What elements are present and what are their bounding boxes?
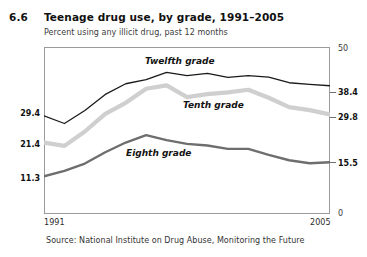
chart-lines <box>44 47 330 214</box>
y-label-eighth-end: 15.5 <box>338 159 358 168</box>
y-label-axis-max: 50 <box>338 44 348 53</box>
figure-container: 6.6 Teenage drug use, by grade, 1991–200… <box>0 0 367 257</box>
plot-area <box>44 47 330 214</box>
figure-subtitle: Percent using any illicit drug, past 12 … <box>44 28 228 37</box>
page-title: Teenage drug use, by grade, 1991–2005 <box>44 11 284 23</box>
y-label-tenth-start: 21.4 <box>6 140 40 149</box>
y-label-twelfth-end: 38.4 <box>338 88 358 97</box>
x-axis-end-label: 2005 <box>310 218 331 227</box>
y-label-tenth-end: 29.8 <box>338 113 358 122</box>
y-label-twelfth-start: 29.4 <box>6 109 40 118</box>
tick-mark-tenth <box>330 117 336 118</box>
y-label-eighth-start: 11.3 <box>6 174 40 183</box>
tick-mark-twelfth <box>330 92 336 93</box>
source-note: Source: National Institute on Drug Abuse… <box>46 236 304 245</box>
tick-mark-eighth <box>330 162 336 163</box>
figure-number: 6.6 <box>9 11 28 23</box>
series-label-tenth: Tenth grade <box>183 100 244 110</box>
x-axis-start-label: 1991 <box>44 218 65 227</box>
series-line-tenth <box>44 85 330 145</box>
series-label-eighth: Eighth grade <box>126 148 191 158</box>
y-label-axis-min: 0 <box>338 209 343 218</box>
series-label-twelfth: Twelfth grade <box>145 56 215 66</box>
